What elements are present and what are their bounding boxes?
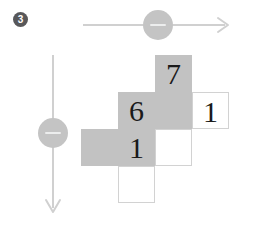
grid-cell-value [155, 92, 192, 129]
grid-cell-value [119, 167, 154, 202]
grid-cell[interactable]: 1 [118, 129, 155, 166]
grid-cell[interactable]: 7 [155, 55, 192, 92]
grid-cell[interactable]: 6 [118, 92, 155, 129]
grid-cell[interactable] [118, 166, 155, 203]
horizontal-slider-knob[interactable] [143, 10, 173, 40]
grid-cell-value [81, 129, 118, 166]
grid-cell[interactable] [81, 129, 118, 166]
grid-cell-value: 6 [118, 92, 155, 129]
grid-cell[interactable]: 1 [192, 92, 229, 129]
right-arrowhead-icon [218, 18, 228, 32]
down-arrowhead-icon [46, 200, 60, 212]
grid-cell[interactable] [155, 129, 192, 166]
grid-cell[interactable] [155, 92, 192, 129]
worksheet-canvas: 3 7611 [0, 0, 255, 229]
grid-cell-value: 1 [193, 93, 228, 128]
grid-cell-value: 1 [118, 129, 155, 166]
grid-cell-value [156, 130, 191, 165]
grid-cell-value: 7 [155, 55, 192, 92]
step-number-badge: 3 [13, 12, 28, 27]
vertical-slider-knob[interactable] [38, 118, 68, 148]
